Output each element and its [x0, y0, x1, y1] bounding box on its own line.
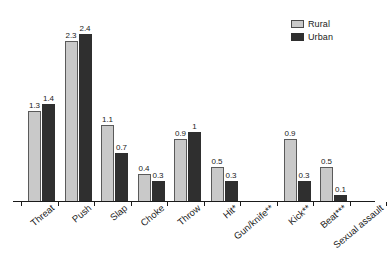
bar-urban	[188, 132, 201, 202]
bar-value-label: 2.4	[79, 24, 90, 33]
bar-value-label: 0.4	[138, 164, 149, 173]
bar-item: 0.1	[334, 9, 347, 202]
bar-urban	[115, 153, 128, 202]
bar-item: 0.9	[174, 9, 187, 202]
bar-urban	[79, 34, 92, 202]
category-label-text: Choke	[138, 203, 165, 228]
bar-item: 0.5	[211, 9, 224, 202]
bar-item: 2.4	[79, 9, 92, 202]
category-label-text: Push	[70, 203, 93, 225]
bar-value-label: 1.4	[43, 94, 54, 103]
bar-pair: 0.91	[174, 9, 201, 202]
bar-pair: 1.31.4	[28, 9, 55, 202]
bar-item: 1.1	[101, 9, 114, 202]
bar-pair	[357, 9, 358, 202]
bar-value-label: 0.7	[116, 143, 127, 152]
bar-item: 0.4	[138, 9, 151, 202]
bar-pair: 0.50.1	[320, 9, 347, 202]
bar-value-label: 0.3	[152, 171, 163, 180]
bar-pair: 0.40.3	[138, 9, 165, 202]
bar-item: 0.9	[284, 9, 297, 202]
bar-value-label: 0.9	[284, 129, 295, 138]
category-label-text: Threat	[29, 203, 56, 228]
bar-pair: 0.50.3	[211, 9, 238, 202]
bar-item: 1	[188, 9, 201, 202]
bar-rural	[28, 111, 41, 202]
bar-value-label: 0.5	[211, 157, 222, 166]
bar-value-label: 1.3	[29, 101, 40, 110]
bar-value-label: 0.1	[335, 185, 346, 194]
bar-item: 0.3	[225, 9, 238, 202]
category-label-text: Beat***	[319, 203, 349, 230]
x-axis-category-labels: ThreatPushSlapChokeThrowHit*Gun/knife**K…	[0, 203, 382, 273]
bar-item: 0.7	[115, 9, 128, 202]
bar-item: 2.3	[65, 9, 78, 202]
bar-pair	[247, 9, 248, 202]
category-label-text: Kick**	[286, 203, 312, 227]
bar-rural	[65, 41, 78, 202]
bar-urban	[152, 181, 165, 202]
bar-value-label: 0.9	[175, 129, 186, 138]
bar-item: 1.3	[28, 9, 41, 202]
category-label-text: Hit*	[221, 203, 239, 221]
bar-item: 0.3	[152, 9, 165, 202]
bar-urban	[225, 181, 238, 202]
bar-pair: 1.10.7	[101, 9, 128, 202]
plot-area: 1.31.42.32.41.10.70.40.30.910.50.30.90.3…	[0, 8, 382, 202]
bar-urban	[42, 104, 55, 202]
bar-value-label: 2.3	[65, 31, 76, 40]
bar-pair: 2.32.4	[65, 9, 92, 202]
bar-item: 1.4	[42, 9, 55, 202]
bar-value-label: 1	[192, 122, 196, 131]
bar-value-label: 0.5	[321, 157, 332, 166]
bar-value-label: 1.1	[102, 115, 113, 124]
category-label-text: Throw	[176, 203, 203, 228]
bar-item: 0.5	[320, 9, 333, 202]
category-label-text: Slap	[108, 203, 129, 223]
bar-value-label: 0.3	[225, 171, 236, 180]
